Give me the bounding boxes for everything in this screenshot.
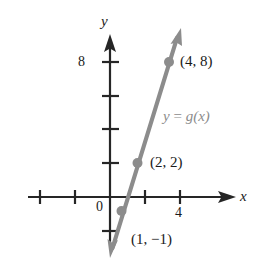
point-label-2-2: (2, 2) xyxy=(150,155,183,170)
function-label-y: y xyxy=(163,108,170,124)
coordinate-plane xyxy=(0,0,264,267)
x-tick-label-4: 4 xyxy=(175,206,182,220)
point-label-4-8: (4, 8) xyxy=(180,54,213,69)
data-point-4-8 xyxy=(164,57,174,67)
graph-figure: y x 8 0 4 (4, 8) (2, 2) (1, −1) y = g(x) xyxy=(0,0,264,267)
x-axis-label: x xyxy=(240,189,247,204)
point-label-1-neg1: (1, −1) xyxy=(131,232,172,247)
function-label-equals: = xyxy=(170,108,186,124)
function-label: y = g(x) xyxy=(163,109,210,124)
origin-label: 0 xyxy=(96,200,103,214)
data-point-1-neg1 xyxy=(117,206,127,216)
y-axis-label: y xyxy=(101,14,108,29)
function-label-argument: (x) xyxy=(193,108,210,124)
y-tick-label-8: 8 xyxy=(78,55,85,69)
function-line xyxy=(113,38,178,248)
data-point-2-2 xyxy=(133,158,143,168)
